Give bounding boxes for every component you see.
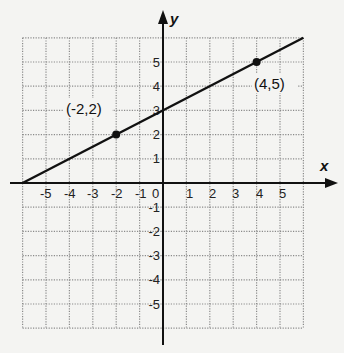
svg-text:-4: -4 [148, 272, 160, 287]
svg-text:-1: -1 [135, 186, 147, 201]
svg-text:2: 2 [153, 127, 160, 142]
svg-text:0: 0 [152, 186, 159, 201]
svg-text:1: 1 [186, 186, 193, 201]
x-axis-label: x [319, 157, 329, 174]
svg-text:-1: -1 [148, 200, 160, 215]
point-a-label: (-2,2) [66, 100, 102, 117]
y-axis-label: y [169, 10, 179, 27]
svg-text:-2: -2 [148, 224, 160, 239]
svg-text:1: 1 [153, 151, 160, 166]
svg-text:5: 5 [279, 186, 286, 201]
svg-text:4: 4 [153, 79, 160, 94]
point-b [253, 58, 261, 66]
svg-text:-5: -5 [148, 297, 160, 312]
svg-text:-2: -2 [111, 186, 123, 201]
svg-text:-5: -5 [40, 186, 52, 201]
coordinate-plane: y x -5 -4 -3 -2 -1 0 1 2 3 4 5 5 4 3 2 1… [0, 0, 344, 353]
svg-text:3: 3 [232, 186, 239, 201]
point-b-label: (4,5) [254, 75, 285, 92]
svg-text:-4: -4 [64, 186, 76, 201]
svg-text:-3: -3 [148, 248, 160, 263]
svg-text:-3: -3 [87, 186, 99, 201]
x-axis-arrow-icon [325, 178, 338, 188]
svg-text:2: 2 [209, 186, 216, 201]
svg-text:5: 5 [153, 55, 160, 70]
point-a [112, 131, 120, 139]
svg-text:4: 4 [256, 186, 263, 201]
y-axis-arrow-icon [158, 10, 168, 24]
